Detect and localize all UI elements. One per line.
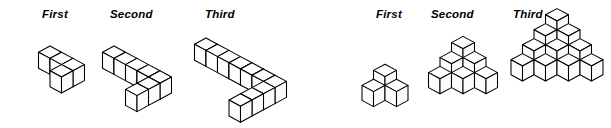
figure-right-third xyxy=(505,25,609,125)
figure-left-third xyxy=(176,30,302,122)
label-right-second: Second xyxy=(431,8,474,20)
label-left-second: Second xyxy=(110,8,153,20)
label-right-first: First xyxy=(376,8,402,20)
figure-left-second xyxy=(88,38,184,114)
figure-canvas: First Second Third First Second Third xyxy=(0,0,611,128)
figure-right-second xyxy=(421,44,505,124)
figure-left-first xyxy=(24,38,88,100)
label-left-third: Third xyxy=(205,8,235,20)
label-right-third: Third xyxy=(513,8,543,20)
figure-right-first xyxy=(355,63,415,123)
label-left-first: First xyxy=(42,8,68,20)
